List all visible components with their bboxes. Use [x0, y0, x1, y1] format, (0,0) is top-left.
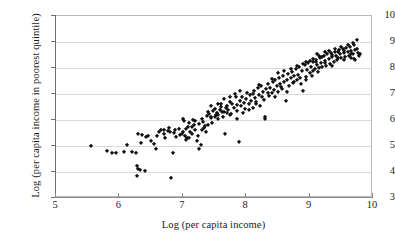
- y-tick-label-5: 5: [349, 140, 395, 150]
- data-point: [122, 149, 127, 154]
- y-tick-mark-6: [51, 119, 56, 120]
- x-tick-label-9: 9: [297, 199, 321, 210]
- x-tick-mark-5: [55, 193, 56, 198]
- y-tick-label-9: 9: [349, 36, 395, 46]
- data-point: [142, 169, 147, 174]
- x-tick-label-5: 5: [43, 199, 67, 210]
- data-point: [221, 115, 226, 120]
- data-point: [317, 66, 322, 71]
- data-point: [234, 95, 239, 100]
- data-point: [139, 141, 144, 146]
- y-tick-mark-9: [51, 41, 56, 42]
- data-point: [170, 151, 175, 156]
- data-point: [194, 139, 199, 144]
- y-tick-mark-8: [51, 67, 56, 68]
- data-point: [134, 151, 139, 156]
- data-point: [187, 136, 192, 141]
- gridline-y-5: [56, 146, 371, 147]
- data-point: [258, 103, 263, 108]
- x-tick-label-10: 10: [360, 199, 384, 210]
- data-point: [298, 82, 303, 87]
- y-tick-label-7: 7: [349, 88, 395, 98]
- data-point: [283, 98, 288, 103]
- y-tick-mark-4: [51, 171, 56, 172]
- gridline-y-6: [56, 120, 371, 121]
- y-tick-mark-7: [51, 93, 56, 94]
- scatter-chart-figure: Log (per capita income in poorest quinti…: [0, 0, 395, 243]
- x-axis-spine: [55, 197, 373, 198]
- x-axis-title: Log (per capita income): [55, 219, 372, 230]
- data-point: [287, 84, 292, 89]
- x-tick-label-7: 7: [170, 199, 194, 210]
- data-point: [134, 174, 139, 179]
- data-point: [310, 74, 315, 79]
- data-point: [298, 76, 303, 81]
- y-tick-label-4: 4: [349, 166, 395, 176]
- data-point: [272, 94, 277, 99]
- data-point: [234, 117, 239, 122]
- x-tick-label-8: 8: [233, 199, 257, 210]
- data-point: [193, 128, 198, 133]
- y-tick-label-8: 8: [349, 62, 395, 72]
- x-tick-mark-7: [182, 193, 183, 198]
- x-tick-label-6: 6: [106, 199, 130, 210]
- y-axis-title: Log (per capita income in poorest quinti…: [30, 1, 41, 211]
- x-tick-mark-10: [372, 193, 373, 198]
- data-point: [301, 89, 306, 94]
- data-point: [104, 148, 109, 153]
- y-tick-label-10: 10: [349, 10, 395, 20]
- data-point: [355, 46, 360, 51]
- data-point: [276, 70, 281, 75]
- data-point: [238, 89, 243, 94]
- data-point: [114, 150, 119, 155]
- y-tick-mark-5: [51, 145, 56, 146]
- data-point: [304, 78, 309, 83]
- data-point: [89, 144, 94, 149]
- data-point: [222, 132, 227, 137]
- data-point: [154, 146, 159, 151]
- gridline-y-8: [56, 68, 371, 69]
- x-tick-mark-9: [309, 193, 310, 198]
- data-point: [228, 94, 233, 99]
- data-point: [196, 133, 201, 138]
- data-point: [196, 122, 201, 127]
- data-point: [228, 113, 233, 118]
- data-point: [169, 176, 174, 181]
- data-point: [236, 140, 241, 145]
- y-tick-mark-10: [51, 15, 56, 16]
- gridline-y-4: [56, 172, 371, 173]
- data-point: [222, 97, 227, 102]
- gridline-y-9: [56, 42, 371, 43]
- data-point: [281, 74, 286, 79]
- x-tick-mark-8: [245, 193, 246, 198]
- y-tick-label-6: 6: [349, 114, 395, 124]
- plot-area: [55, 15, 372, 197]
- data-point: [234, 109, 239, 114]
- gridline-y-7: [56, 94, 371, 95]
- x-tick-mark-6: [118, 193, 119, 198]
